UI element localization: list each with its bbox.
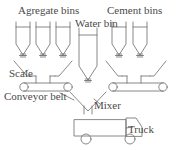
gate-valve-aggregate-3 <box>60 54 67 58</box>
conveyor-belt-right <box>109 83 167 91</box>
diagram-canvas: Agregate bins Water bin Cement bins Scal… <box>0 0 177 150</box>
truck-front-wheel <box>125 134 135 144</box>
gate-valve-water <box>85 79 92 83</box>
aggregate-bin-3 <box>56 22 70 55</box>
label-cement-bins: Cement bins <box>107 5 162 16</box>
cement-bin-2 <box>133 22 147 55</box>
label-mixer: Mixer <box>94 100 121 111</box>
gate-valve-cement-2 <box>137 54 144 58</box>
gate-valve-cement-1 <box>116 54 123 58</box>
water-bin <box>79 28 97 80</box>
truck-rear-wheel <box>81 134 91 144</box>
aggregate-bin-1 <box>16 22 30 55</box>
label-scale: Scale <box>9 68 33 79</box>
aggregate-bin-2 <box>36 22 50 55</box>
label-water-bin: Water bin <box>75 18 118 29</box>
label-conveyor-belt: Conveyor belt <box>4 91 67 102</box>
label-truck: Truck <box>128 124 154 135</box>
gate-valve-aggregate-2 <box>40 54 47 58</box>
cement-scale-hopper <box>106 61 166 83</box>
label-aggregate-bins: Agregate bins <box>18 5 79 16</box>
truck-cargo-box <box>74 120 126 136</box>
gate-valve-aggregate-1 <box>20 54 27 58</box>
